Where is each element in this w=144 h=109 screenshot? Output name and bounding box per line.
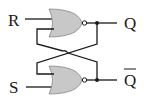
output-q-label: Q bbox=[124, 14, 136, 33]
input-r-label: R bbox=[8, 11, 20, 30]
nor-gate-body-icon bbox=[49, 9, 82, 37]
nor-gate-body-icon bbox=[49, 66, 82, 94]
inversion-bubble-icon bbox=[82, 78, 86, 82]
input-s-label: S bbox=[9, 78, 18, 97]
output-q-bar-label: Q bbox=[124, 71, 136, 90]
sr-latch-diagram: R S Q Q bbox=[0, 0, 144, 109]
bottom-nor-gate bbox=[49, 66, 87, 94]
inversion-bubble-icon bbox=[82, 21, 86, 25]
top-nor-gate bbox=[49, 9, 87, 37]
